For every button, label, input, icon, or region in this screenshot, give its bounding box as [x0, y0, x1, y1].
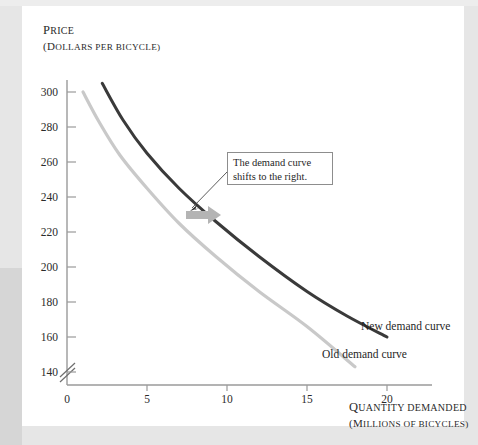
plot-area: 300 280 260 240 220 200 180 160 140 0 5 …	[0, 0, 478, 445]
figure-root: PRICE (DOLLARS PER BICYCLE) QUANTITY DEM…	[0, 0, 478, 445]
x-tick-marks	[147, 385, 387, 391]
y-tick-label-160: 160	[41, 331, 59, 343]
y-tick-label-300: 300	[41, 86, 59, 98]
y-tick-label-260: 260	[41, 156, 59, 168]
annotation-line-2: shifts to the right.	[233, 170, 327, 184]
annotation-line-1: The demand curve	[233, 156, 327, 170]
y-tick-label-140: 140	[41, 366, 59, 378]
y-tick-label-200: 200	[41, 261, 59, 273]
y-tick-label-220: 220	[41, 226, 59, 238]
x-tick-label-10: 10	[221, 393, 233, 405]
x-tick-label-5: 5	[144, 393, 150, 405]
new-demand-curve-label: New demand curve	[361, 320, 450, 332]
x-tick-label-0: 0	[64, 393, 70, 405]
old-demand-curve	[83, 92, 355, 367]
annotation-callout: The demand curve shifts to the right.	[227, 152, 333, 185]
old-demand-curve-label: Old demand curve	[322, 348, 407, 360]
y-tick-label-180: 180	[41, 296, 59, 308]
x-tick-label-15: 15	[301, 393, 313, 405]
x-tick-label-20: 20	[381, 393, 393, 405]
y-tick-label-280: 280	[41, 121, 59, 133]
y-tick-label-240: 240	[41, 191, 59, 203]
y-tick-marks	[67, 92, 76, 372]
new-demand-curve	[102, 83, 387, 337]
